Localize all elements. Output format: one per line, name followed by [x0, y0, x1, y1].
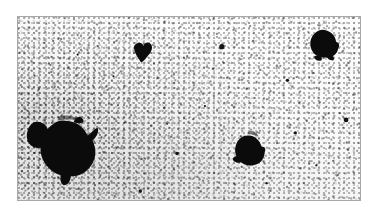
colony-mid-right	[233, 131, 266, 165]
colony-upper-middle	[134, 43, 152, 63]
colony-svg	[18, 17, 360, 200]
colony-upper-right	[310, 30, 339, 61]
colony-large-lower-left	[27, 116, 98, 186]
colony-specks	[77, 44, 349, 193]
colony-layer	[18, 17, 360, 200]
page-canvas	[0, 0, 379, 214]
plate-image-area	[18, 17, 360, 200]
micrograph-plate	[17, 16, 361, 201]
